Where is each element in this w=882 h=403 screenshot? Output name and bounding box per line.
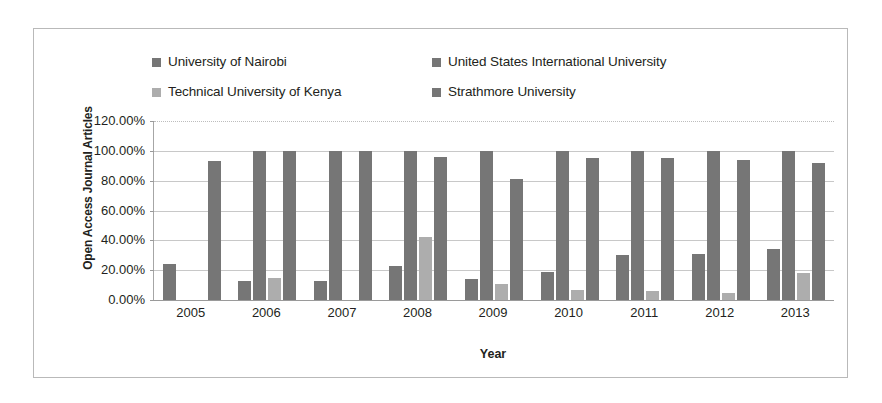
bar[interactable] [646, 291, 659, 300]
bar[interactable] [510, 179, 523, 300]
y-axis-tick-label: 80.00% [101, 173, 145, 189]
bar-group-2013 [759, 121, 835, 300]
bar[interactable] [238, 281, 251, 300]
bar-group-2012 [683, 121, 759, 300]
bar[interactable] [586, 158, 599, 300]
legend-item-strathmore-university[interactable]: Strathmore University [432, 85, 812, 99]
bar[interactable] [329, 151, 342, 300]
bar[interactable] [556, 151, 569, 300]
bar[interactable] [163, 264, 176, 300]
x-axis-tick-labels: 200520062007200820092010201120122013 [153, 305, 833, 320]
bar[interactable] [389, 266, 402, 300]
bar[interactable] [283, 151, 296, 300]
plot-wrapper: 120.00%100.00%80.00%60.00%40.00%20.00%0.… [153, 121, 833, 300]
x-axis-title: Year [153, 347, 833, 361]
legend-swatch-icon [432, 58, 441, 67]
bar[interactable] [767, 249, 780, 300]
bar-groups [154, 121, 834, 300]
bar[interactable] [631, 151, 644, 300]
y-axis-tick-label: 60.00% [101, 203, 145, 219]
x-axis-tick-label: 2008 [380, 305, 456, 320]
bar[interactable] [812, 163, 825, 300]
x-axis-tick-label: 2012 [682, 305, 758, 320]
plot-area [153, 121, 834, 300]
y-axis-tick-labels: 120.00%100.00%80.00%60.00%40.00%20.00%0.… [71, 113, 149, 292]
bar[interactable] [404, 151, 417, 300]
bar[interactable] [541, 272, 554, 300]
bar[interactable] [359, 151, 372, 300]
chart-legend: University of Nairobi United States Inte… [152, 47, 812, 107]
bar[interactable] [707, 151, 720, 300]
chart-frame: University of Nairobi United States Inte… [33, 28, 848, 378]
y-axis-tickmark [150, 300, 154, 301]
x-axis-tick-label: 2010 [531, 305, 607, 320]
bar-group-2009 [456, 121, 532, 300]
bar-group-2010 [532, 121, 608, 300]
bar[interactable] [253, 151, 266, 300]
bar[interactable] [465, 279, 478, 300]
bar[interactable] [722, 293, 735, 300]
bar-group-2007 [305, 121, 381, 300]
bar[interactable] [797, 273, 810, 300]
legend-label: Technical University of Kenya [168, 85, 341, 99]
x-axis-tick-label: 2009 [455, 305, 531, 320]
bar[interactable] [571, 290, 584, 300]
bar-group-2011 [607, 121, 683, 300]
legend-item-united-states-international-university[interactable]: United States International University [432, 55, 812, 69]
bar[interactable] [616, 255, 629, 300]
legend-swatch-icon [152, 88, 161, 97]
bar[interactable] [782, 151, 795, 300]
legend-item-university-of-nairobi[interactable]: University of Nairobi [152, 55, 432, 69]
x-axis-tick-label: 2006 [229, 305, 305, 320]
y-axis-tick-label: 120.00% [94, 113, 145, 129]
bar[interactable] [314, 281, 327, 300]
y-axis-tick-label: 0.00% [108, 292, 145, 308]
bar[interactable] [692, 254, 705, 300]
gridline [154, 300, 834, 301]
legend-label: University of Nairobi [168, 55, 287, 69]
legend-swatch-icon [432, 88, 441, 97]
legend-label: Strathmore University [448, 85, 576, 99]
bar-group-2008 [381, 121, 457, 300]
bar[interactable] [268, 278, 281, 300]
y-axis-tick-label: 20.00% [101, 262, 145, 278]
x-axis-tick-label: 2005 [153, 305, 229, 320]
legend-item-technical-university-of-kenya[interactable]: Technical University of Kenya [152, 85, 432, 99]
bar[interactable] [480, 151, 493, 300]
bar[interactable] [419, 237, 432, 300]
bar-group-2006 [230, 121, 306, 300]
legend-swatch-icon [152, 58, 161, 67]
x-axis-tick-label: 2013 [758, 305, 834, 320]
bar[interactable] [208, 161, 221, 300]
y-axis-tick-label: 40.00% [101, 232, 145, 248]
bar-group-2005 [154, 121, 230, 300]
x-axis-tick-label: 2011 [606, 305, 682, 320]
legend-label: United States International University [448, 55, 666, 69]
y-axis-tick-label: 100.00% [94, 143, 145, 159]
bar[interactable] [737, 160, 750, 300]
x-axis-tick-label: 2007 [304, 305, 380, 320]
bar[interactable] [661, 158, 674, 300]
bar[interactable] [495, 284, 508, 300]
bar[interactable] [434, 157, 447, 300]
